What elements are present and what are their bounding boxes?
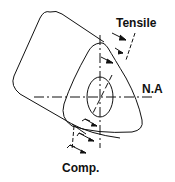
diagonal-centerline	[92, 75, 112, 115]
tensile-arrowhead-3	[106, 59, 113, 63]
tensile-arrowhead-1	[119, 35, 126, 40]
cross-section-diagram: Tensile N.A Comp.	[0, 0, 175, 182]
compression-label: Comp.	[62, 161, 99, 175]
outer-section-top-edge	[50, 11, 104, 42]
comp-arrow-2-head	[88, 138, 94, 141]
comp-arrow-1-head	[91, 123, 97, 126]
neutral-axis-label: N.A	[142, 82, 163, 96]
tensile-label: Tensile	[116, 16, 157, 30]
outer-section-outline	[13, 12, 86, 134]
comp-arrow-3-head	[80, 150, 86, 153]
tensile-extension-line	[126, 33, 135, 60]
inner-section-outline	[63, 43, 142, 133]
